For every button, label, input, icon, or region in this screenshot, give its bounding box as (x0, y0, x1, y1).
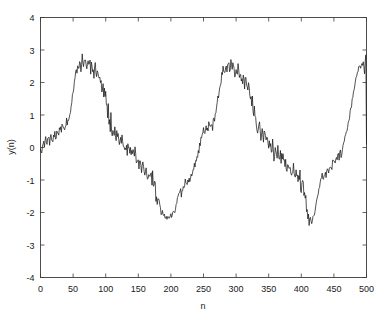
x-tick-label: 300 (229, 284, 244, 294)
x-tick-label: 200 (163, 284, 178, 294)
y-tick-label: 0 (29, 143, 34, 153)
x-tick-label: 50 (68, 284, 78, 294)
x-tick-label: 450 (326, 284, 341, 294)
figure-background (0, 0, 386, 316)
y-tick-label: -1 (26, 176, 34, 186)
x-tick-label: 100 (98, 284, 113, 294)
x-tick-label: 250 (196, 284, 211, 294)
figure-container: 050100150200250300350400450500 -4-3-2-10… (0, 0, 386, 316)
y-tick-label: 2 (29, 78, 34, 88)
x-axis-title: n (200, 301, 205, 311)
y-tick-label: 1 (29, 111, 34, 121)
y-tick-label: 3 (29, 46, 34, 56)
y-tick-label: -4 (26, 273, 34, 283)
x-tick-label: 500 (359, 284, 374, 294)
line-chart: 050100150200250300350400450500 -4-3-2-10… (0, 0, 386, 316)
y-tick-label: 4 (29, 13, 34, 23)
y-tick-label: -2 (26, 208, 34, 218)
x-tick-label: 400 (294, 284, 309, 294)
y-tick-label: -3 (26, 241, 34, 251)
x-tick-label: 150 (131, 284, 146, 294)
x-tick-label: 350 (261, 284, 276, 294)
y-axis-title: y(n) (6, 139, 16, 155)
x-tick-label: 0 (38, 284, 43, 294)
